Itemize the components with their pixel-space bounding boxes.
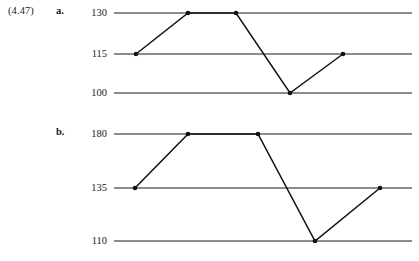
data-point: 180 xyxy=(186,132,191,137)
data-point: 130 xyxy=(234,11,239,16)
chart-a-data-points: 115130130100115 xyxy=(134,11,346,96)
data-point: 130 xyxy=(186,11,191,16)
chart-b-gridlines xyxy=(114,134,412,241)
chart-b-ytick-labels: 180135110 xyxy=(91,128,107,246)
data-point: 135 xyxy=(378,186,383,191)
data-point: 180 xyxy=(256,132,261,137)
y-axis-tick-label: 110 xyxy=(92,235,107,246)
y-axis-tick-label: 180 xyxy=(91,128,107,139)
chart-a: 130115100 115130130100115 xyxy=(91,7,412,98)
data-point: 135 xyxy=(133,186,138,191)
data-point: 115 xyxy=(134,52,139,57)
y-axis-tick-label: 135 xyxy=(91,182,107,193)
data-point: 115 xyxy=(341,52,346,57)
data-point: 110 xyxy=(313,239,318,244)
data-point: 100 xyxy=(288,91,293,96)
figure-container: (4.47) a. b. 130115100 115130130100115 1… xyxy=(0,0,419,261)
charts-canvas: 130115100 115130130100115 180135110 1351… xyxy=(0,0,419,261)
chart-a-series-line xyxy=(136,13,343,93)
y-axis-tick-label: 115 xyxy=(92,48,107,59)
y-axis-tick-label: 130 xyxy=(91,7,107,18)
chart-b: 180135110 135180180110135 xyxy=(91,128,412,246)
y-axis-tick-label: 100 xyxy=(91,87,107,98)
chart-a-ytick-labels: 130115100 xyxy=(91,7,107,98)
